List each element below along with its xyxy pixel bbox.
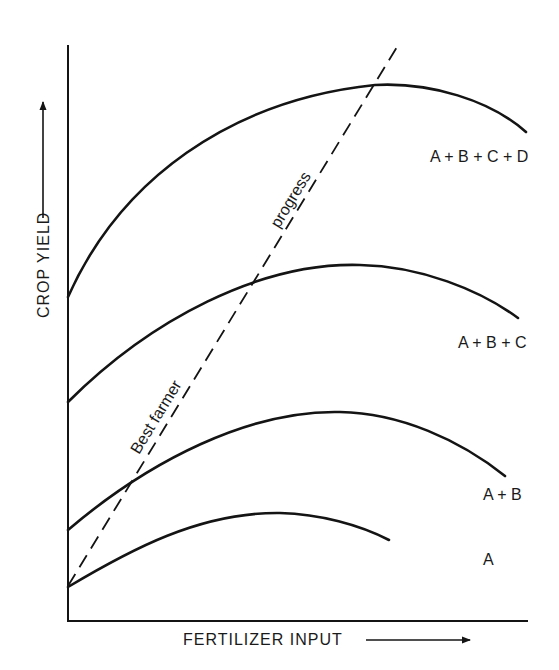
label-a-b-c-d: A + B + C + D <box>430 148 528 165</box>
curve-a <box>68 513 389 587</box>
y-axis-title: CROP YIELD <box>35 212 52 318</box>
label-a-b-c: A + B + C <box>458 334 526 351</box>
best-farmer-progress-line <box>68 47 397 586</box>
yield-response-chart: A + B + C + D A + B + C A + B A Best far… <box>0 0 559 670</box>
label-a: A <box>483 551 494 568</box>
label-a-b: A + B <box>483 486 522 503</box>
curve-a-b-c <box>68 265 518 402</box>
annotation-best-farmer: Best farmer <box>127 377 185 457</box>
x-axis-title: FERTILIZER INPUT <box>183 631 343 648</box>
